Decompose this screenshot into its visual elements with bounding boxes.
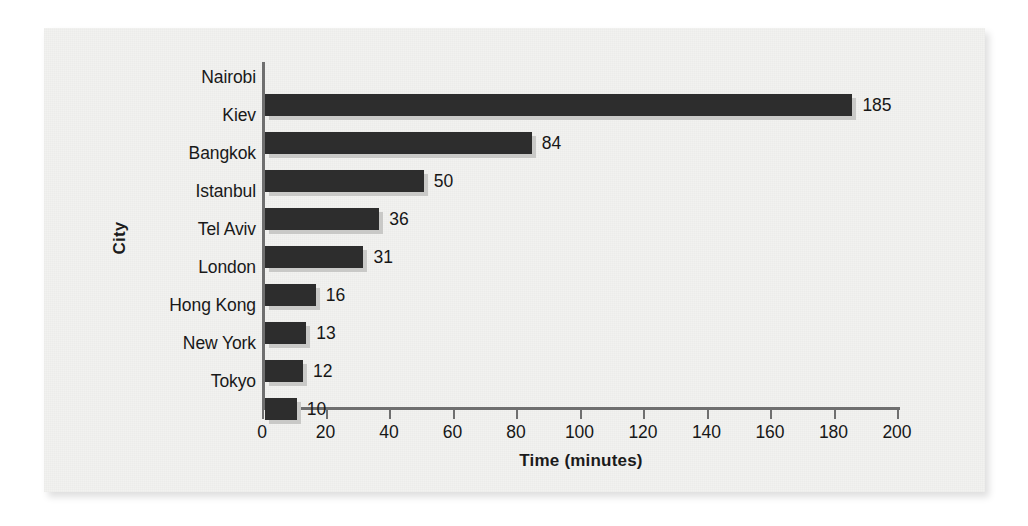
bar xyxy=(265,398,297,420)
bar xyxy=(265,246,363,268)
x-axis-tick xyxy=(326,410,328,419)
y-axis-tick-label: New York xyxy=(84,332,256,354)
y-axis-tick-label: Tokyo xyxy=(84,370,256,392)
bar xyxy=(265,360,303,382)
x-axis-tick-label: 200 xyxy=(867,422,927,443)
x-axis-tick xyxy=(897,410,899,419)
bar-row: 31 xyxy=(265,246,965,268)
y-axis-tick-labels: NairobiKievBangkokIstanbulTel AvivLondon… xyxy=(84,66,256,408)
bar xyxy=(265,94,852,116)
bar-value-label: 84 xyxy=(542,132,561,154)
x-axis-tick xyxy=(707,410,709,419)
bar xyxy=(265,132,532,154)
x-axis-tick xyxy=(580,410,582,419)
y-axis-tick-label: Tel Aviv xyxy=(84,218,256,240)
bar xyxy=(265,170,424,192)
x-axis-title: Time (minutes) xyxy=(262,451,900,471)
plot-area: 1858450363116131210020406080100120140160… xyxy=(262,62,962,410)
bar-row: 10 xyxy=(265,398,965,420)
x-axis-tick xyxy=(770,410,772,419)
x-axis-tick-label: 140 xyxy=(677,422,737,443)
x-axis-tick-label: 80 xyxy=(486,422,546,443)
bar-row: 13 xyxy=(265,322,965,344)
bar-chart: City NairobiKievBangkokIstanbulTel AvivL… xyxy=(44,28,985,492)
x-axis-tick-label: 40 xyxy=(359,422,419,443)
bar-value-label: 10 xyxy=(307,398,326,420)
x-axis-tick xyxy=(643,410,645,419)
x-axis-tick-label: 60 xyxy=(423,422,483,443)
bar-value-label: 31 xyxy=(373,246,392,268)
y-axis-tick-label: Kiev xyxy=(84,104,256,126)
x-axis-tick-label: 180 xyxy=(804,422,864,443)
bar-value-label: 16 xyxy=(326,284,345,306)
bar-row: 36 xyxy=(265,208,965,230)
bar-value-label: 36 xyxy=(389,208,408,230)
x-axis-tick-label: 160 xyxy=(740,422,800,443)
x-axis-tick xyxy=(389,410,391,419)
x-axis-tick xyxy=(516,410,518,419)
x-axis-tick-label: 100 xyxy=(550,422,610,443)
x-axis-tick xyxy=(453,410,455,419)
bar-row: 185 xyxy=(265,94,965,116)
bar-row: 12 xyxy=(265,360,965,382)
y-axis-tick-label: London xyxy=(84,256,256,278)
bar-value-label: 13 xyxy=(316,322,335,344)
y-axis-tick-label: Bangkok xyxy=(84,142,256,164)
x-axis-tick xyxy=(262,410,264,419)
bar xyxy=(265,208,379,230)
y-axis-tick-label: Nairobi xyxy=(84,66,256,88)
x-axis-tick xyxy=(834,410,836,419)
bar xyxy=(265,322,306,344)
y-axis-tick-label: Istanbul xyxy=(84,180,256,202)
bar-row: 16 xyxy=(265,284,965,306)
x-axis-tick-label: 20 xyxy=(296,422,356,443)
y-axis-tick-label: Hong Kong xyxy=(84,294,256,316)
x-axis-tick-label: 0 xyxy=(232,422,292,443)
bar xyxy=(265,284,316,306)
bar-value-label: 50 xyxy=(434,170,453,192)
bar-row: 84 xyxy=(265,132,965,154)
bar-value-label: 185 xyxy=(862,94,891,116)
bar-row: 50 xyxy=(265,170,965,192)
bar-value-label: 12 xyxy=(313,360,332,382)
figure-panel: City NairobiKievBangkokIstanbulTel AvivL… xyxy=(44,28,985,492)
x-axis-tick-label: 120 xyxy=(613,422,673,443)
